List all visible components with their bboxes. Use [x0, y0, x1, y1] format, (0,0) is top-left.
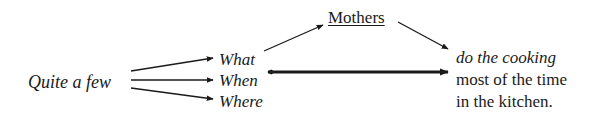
branch-where: Where: [219, 93, 263, 110]
predicate-line-3: in the kitchen.: [456, 93, 553, 110]
arrow-to-where: [131, 88, 213, 99]
arrow-what-to-mothers: [264, 25, 323, 51]
branch-what: What: [219, 51, 255, 68]
arrow-mothers-to-predicate: [398, 22, 448, 49]
source-label: Quite a few: [28, 74, 111, 91]
arrow-to-what: [131, 58, 213, 71]
branch-when: When: [219, 72, 258, 89]
predicate-line-2: most of the time: [456, 71, 567, 88]
subject-mothers: Mothers: [328, 9, 385, 26]
predicate-line-1: do the cooking: [456, 49, 556, 66]
